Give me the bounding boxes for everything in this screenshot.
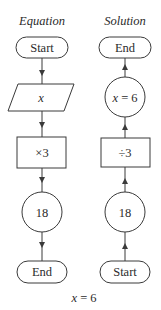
equation-start-label: Start	[30, 41, 54, 55]
solution-answer-label: x = 6	[111, 91, 137, 105]
arrow-up-icon	[122, 124, 128, 130]
solution-start-label: Start	[113, 265, 137, 279]
solution-start-value-label: 18	[119, 206, 132, 220]
equation-column: Start x ×3 18 End	[8, 37, 74, 283]
arrow-down-icon	[39, 122, 45, 128]
flowchart-diagram: Equation Solution Start x ×3 18 End	[0, 0, 161, 310]
equation-input-label: x	[37, 91, 44, 105]
diagram-caption: x = 6	[70, 291, 96, 305]
arrow-up-icon	[122, 64, 128, 70]
arrow-down-icon	[39, 242, 45, 248]
equation-result-label: 18	[36, 206, 49, 220]
arrow-down-icon	[39, 177, 45, 183]
equation-operation-label: ×3	[35, 146, 48, 160]
equation-title: Equation	[18, 14, 65, 28]
equation-end-label: End	[32, 265, 53, 279]
solution-end-label: End	[115, 41, 136, 55]
arrow-down-icon	[39, 70, 45, 76]
solution-column: End x = 6 ÷3 18 Start	[99, 37, 151, 283]
solution-title: Solution	[104, 14, 146, 28]
solution-operation-label: ÷3	[118, 146, 131, 160]
arrow-up-icon	[122, 178, 128, 184]
arrow-up-icon	[122, 243, 128, 249]
